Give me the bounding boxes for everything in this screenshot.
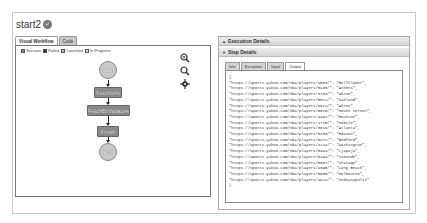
- node-start[interactable]: Start: [99, 61, 117, 79]
- workflow-canvas[interactable]: Success Failed Canceled In Progress Star…: [15, 45, 211, 197]
- workflow-panel: Visual Workflow Code Success Failed Canc…: [12, 36, 214, 214]
- step-details-label: Step Details: [228, 49, 257, 55]
- canceled-swatch: [61, 49, 65, 53]
- tab-code[interactable]: Code: [59, 36, 78, 45]
- status-legend: Success Failed Canceled In Progress: [21, 48, 110, 53]
- output-content[interactable]: { "https://sports.yahoo.com/nba/players/…: [225, 70, 403, 203]
- zoom-out-icon[interactable]: [180, 66, 190, 76]
- node-end[interactable]: End: [99, 143, 117, 161]
- node-fetch-urls[interactable]: FetchUrls: [94, 87, 122, 98]
- execution-details-label: Execution Details: [228, 38, 270, 44]
- tab-output[interactable]: Output: [285, 62, 305, 70]
- caret-right-icon: ▲: [222, 39, 226, 44]
- legend-success: Success: [21, 48, 41, 53]
- step-tabs: Info Exception Input Output: [225, 62, 306, 70]
- canvas-tools: [180, 53, 190, 89]
- legend-label: In Progress: [90, 48, 110, 53]
- legend-label: Success: [26, 48, 41, 53]
- edge-arrow: [108, 116, 109, 125]
- caret-down-icon: ▼: [222, 50, 226, 55]
- recenter-icon[interactable]: [180, 79, 190, 89]
- edge-arrow: [108, 98, 109, 104]
- edge-arrow: [108, 80, 109, 86]
- step-details-body: Info Exception Input Output { "https://s…: [219, 59, 409, 209]
- legend-label: Failed: [48, 48, 59, 53]
- tab-input[interactable]: Input: [267, 62, 284, 70]
- tab-info[interactable]: Info: [225, 62, 240, 70]
- tab-exception[interactable]: Exception: [241, 62, 267, 70]
- node-finish[interactable]: Finish: [97, 126, 119, 137]
- execution-details-header[interactable]: ▲ Execution Details: [219, 37, 409, 46]
- legend-failed: Failed: [43, 48, 59, 53]
- legend-in-progress: In Progress: [85, 48, 110, 53]
- details-panel: ▲ Execution Details ▼ Step Details Info …: [218, 36, 410, 210]
- check-circle-icon: ✓: [43, 20, 52, 29]
- edge-arrow: [108, 137, 109, 142]
- in-progress-swatch: [85, 49, 89, 53]
- legend-canceled: Canceled: [61, 48, 83, 53]
- zoom-in-icon[interactable]: [180, 53, 190, 63]
- header: start2 ✓: [16, 17, 52, 31]
- failed-swatch: [43, 49, 47, 53]
- workflow-tabs: Visual Workflow Code: [15, 36, 78, 45]
- step-details-header[interactable]: ▼ Step Details: [219, 48, 409, 57]
- tab-visual-workflow[interactable]: Visual Workflow: [15, 36, 58, 45]
- output-line: }: [229, 183, 399, 189]
- success-swatch: [21, 49, 25, 53]
- legend-label: Canceled: [66, 48, 83, 53]
- node-fetch-birthplaces[interactable]: FetchBirthplaces: [87, 105, 130, 116]
- page-title: start2: [16, 19, 41, 30]
